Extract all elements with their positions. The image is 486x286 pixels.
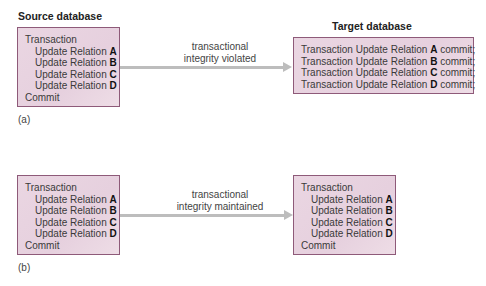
commit-line: Commit xyxy=(301,240,395,252)
target-line-a: Transaction Update Relation A commit; xyxy=(301,44,473,56)
arrow-shaft-a xyxy=(120,66,284,69)
target-transaction-box-b: Transaction Update Relation A Update Rel… xyxy=(293,175,396,255)
target-line-b: Transaction Update Relation B commit; xyxy=(301,56,473,68)
target-line-d: Transaction Update Relation D commit; xyxy=(301,79,473,91)
arrow-right-icon xyxy=(284,210,293,220)
update-relation-b: Update Relation B xyxy=(301,205,395,217)
update-relation-a: Update Relation A xyxy=(25,46,119,58)
source-database-title: Source database xyxy=(18,10,102,22)
target-transaction-box-a: Transaction Update Relation A commit; Tr… xyxy=(293,37,474,94)
transaction-line: Transaction xyxy=(25,34,119,46)
target-line-c: Transaction Update Relation C commit; xyxy=(301,67,473,79)
arrow-label-violated: transactional integrity violated xyxy=(160,41,280,65)
commit-line: Commit xyxy=(25,92,119,104)
arrow-right-icon xyxy=(283,62,292,72)
target-database-title: Target database xyxy=(332,20,412,32)
update-relation-d: Update Relation D xyxy=(25,228,119,240)
transaction-line: Transaction xyxy=(25,182,119,194)
commit-line: Commit xyxy=(25,240,119,252)
update-relation-c: Update Relation C xyxy=(25,217,119,229)
arrow-label-maintained: transactional integrity maintained xyxy=(155,189,285,213)
caption-b: (b) xyxy=(18,262,30,273)
arrow-shaft-b xyxy=(120,214,285,217)
update-relation-a: Update Relation A xyxy=(25,194,119,206)
source-transaction-box-b: Transaction Update Relation A Update Rel… xyxy=(17,175,120,255)
transaction-line: Transaction xyxy=(301,182,395,194)
update-relation-d: Update Relation D xyxy=(301,228,395,240)
update-relation-c: Update Relation C xyxy=(301,217,395,229)
caption-a: (a) xyxy=(18,114,30,125)
update-relation-b: Update Relation B xyxy=(25,205,119,217)
update-relation-a: Update Relation A xyxy=(301,194,395,206)
update-relation-c: Update Relation C xyxy=(25,69,119,81)
source-transaction-box-a: Transaction Update Relation A Update Rel… xyxy=(17,27,120,107)
update-relation-b: Update Relation B xyxy=(25,57,119,69)
update-relation-d: Update Relation D xyxy=(25,80,119,92)
